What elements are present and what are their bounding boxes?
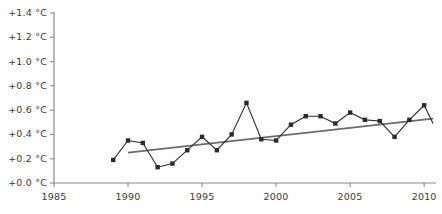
data-point-marker <box>274 138 278 142</box>
chart-plot-area <box>0 0 442 214</box>
data-point-marker <box>185 148 189 152</box>
data-point-marker <box>348 110 352 114</box>
data-point-marker <box>229 132 233 136</box>
data-point-marker <box>259 137 263 141</box>
data-point-marker <box>141 141 145 145</box>
y-axis-tick-label: +1.4 °C <box>8 7 47 18</box>
data-series-line <box>113 103 433 167</box>
y-axis-tick-label: +0.0 °C <box>8 177 47 188</box>
data-point-marker <box>126 138 130 142</box>
x-axis-tick-label: 2010 <box>399 191 442 202</box>
data-point-marker <box>289 123 293 127</box>
x-axis-tick-label: 2000 <box>251 191 301 202</box>
data-point-marker <box>155 165 159 169</box>
data-point-marker <box>392 135 396 139</box>
data-point-marker <box>378 119 382 123</box>
x-axis-tick-label: 2005 <box>325 191 375 202</box>
data-point-marker <box>170 161 174 165</box>
data-point-marker <box>244 101 248 105</box>
data-point-marker <box>407 118 411 122</box>
y-axis-tick-label: +0.4 °C <box>8 128 47 139</box>
data-point-marker <box>333 121 337 125</box>
x-axis-tick-label: 1985 <box>29 191 79 202</box>
data-point-marker <box>422 103 426 107</box>
data-point-marker <box>363 118 367 122</box>
y-axis-tick-label: +1.0 °C <box>8 56 47 67</box>
temperature-anomaly-chart: +0.0 °C+0.2 °C+0.4 °C+0.6 °C+0.8 °C+1.0 … <box>0 0 442 214</box>
data-point-marker <box>215 148 219 152</box>
x-axis-tick-label: 1990 <box>103 191 153 202</box>
data-point-marker <box>304 114 308 118</box>
y-axis-tick-label: +0.6 °C <box>8 104 47 115</box>
y-axis-tick-label: +0.2 °C <box>8 153 47 164</box>
data-point-marker <box>200 135 204 139</box>
y-axis-tick-label: +1.2 °C <box>8 31 47 42</box>
y-axis-tick-label: +0.8 °C <box>8 80 47 91</box>
data-point-marker <box>111 158 115 162</box>
data-point-marker <box>318 114 322 118</box>
x-axis-tick-label: 1995 <box>177 191 227 202</box>
